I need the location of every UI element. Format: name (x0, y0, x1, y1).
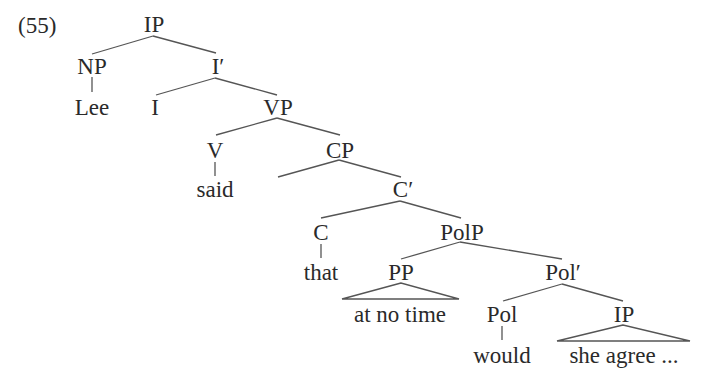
edge-vp-v (216, 118, 277, 135)
edge-ip-ibar (153, 36, 216, 53)
edge-polbar-pol (503, 284, 562, 301)
node-vp: VP (263, 95, 292, 120)
example-number: (55) (18, 13, 56, 38)
node-i: I (151, 95, 159, 120)
tree-edges (92, 36, 690, 341)
edge-vp-cp (277, 118, 340, 135)
node-pp: PP (388, 260, 414, 285)
node-said: said (196, 177, 234, 202)
node-np: NP (77, 54, 106, 79)
edge-ibar-vp (215, 78, 277, 95)
node-would: would (473, 343, 531, 368)
node-c-bar: C′ (393, 177, 413, 202)
tree-nodes: IP NP I′ Lee I VP V CP said C′ C PolP th… (75, 12, 679, 368)
node-pol-bar: Pol′ (545, 260, 581, 285)
node-that: that (304, 260, 339, 285)
ip-triangle (557, 325, 690, 341)
edge-polbar-ip (562, 284, 623, 301)
node-i-bar: I′ (212, 54, 225, 79)
pp-triangle (342, 283, 459, 299)
node-ip-embedded: IP (614, 302, 634, 327)
node-c: C (313, 220, 328, 245)
node-at-no-time: at no time (354, 302, 446, 327)
node-v: V (207, 138, 224, 163)
edge-ibar-i (156, 78, 215, 95)
node-ip-root: IP (144, 12, 164, 37)
node-she-agree: she agree ... (569, 343, 678, 368)
edge-cbar-c (321, 201, 400, 218)
edge-cbar-polp (400, 201, 461, 218)
node-cp: CP (326, 138, 354, 163)
node-lee: Lee (75, 95, 109, 120)
node-polp: PolP (440, 220, 483, 245)
node-pol: Pol (487, 302, 518, 327)
syntax-tree: (55) IP NP (0, 0, 712, 379)
edge-ip-np (92, 36, 153, 54)
